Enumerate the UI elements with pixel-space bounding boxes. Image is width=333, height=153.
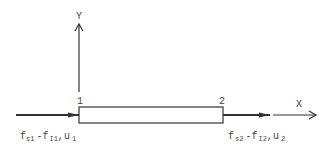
force-label-node-1: fs1-fI1,u1 (20, 131, 76, 143)
force-label-node-2: fs2-fI2,u2 (228, 131, 285, 143)
x-axis-label: X (296, 99, 302, 110)
bar-element (79, 107, 223, 123)
node-2-label: 2 (219, 96, 225, 107)
svg-text:fs2-fI2,u2: fs2-fI2,u2 (228, 131, 285, 143)
node-1-label: 1 (77, 96, 83, 107)
svg-text:fs1-fI1,u1: fs1-fI1,u1 (20, 131, 76, 143)
y-axis-label: Y (76, 11, 82, 22)
bar-element-diagram: Y 1 2 X fs1-fI1,u1 fs2-fI2,u2 (0, 0, 333, 153)
